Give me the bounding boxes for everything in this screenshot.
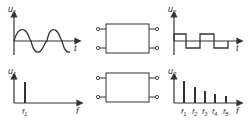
f2-label: f2 [192, 107, 197, 117]
bottom-two-port-block [96, 73, 158, 102]
sine-input-plot: u1 t [8, 4, 78, 55]
t-axis-label: t [74, 43, 77, 53]
f3-label: f3 [202, 107, 208, 117]
f1-label: f1 [22, 107, 27, 117]
output-spectrum-plot: u2 f1 f2 f3 f4 f5 f [168, 66, 240, 117]
input-spectrum-plot: u1 f1 f [8, 66, 80, 117]
f4-label: f4 [212, 107, 217, 117]
terminal-icon [96, 46, 99, 49]
f-axis-label: f [236, 106, 240, 116]
terminal-icon [155, 95, 158, 98]
f1-label: f1 [181, 107, 186, 117]
square-output-plot: u2 t [168, 4, 240, 55]
u1-label: u1 [8, 66, 16, 77]
terminal-icon [155, 76, 158, 79]
u1-label: u1 [8, 4, 16, 15]
f-axis-label: f [76, 106, 80, 116]
f5-label: f5 [223, 107, 229, 117]
terminal-icon [96, 27, 99, 30]
terminal-icon [96, 95, 99, 98]
t-axis-label: t [236, 43, 239, 53]
u2-label: u2 [168, 4, 177, 15]
terminal-icon [96, 76, 99, 79]
terminal-icon [155, 46, 158, 49]
signal-diagram: u1 t u2 t u1 f1 f [0, 0, 248, 125]
terminal-icon [155, 27, 158, 30]
u2-label: u2 [168, 66, 177, 77]
top-two-port-block [96, 24, 158, 53]
